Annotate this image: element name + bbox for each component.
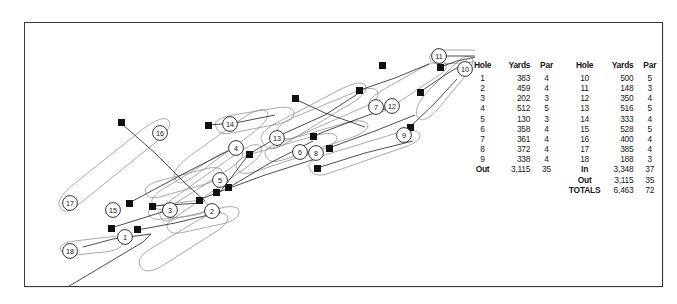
scorecard-row: 32023123504 xyxy=(468,93,660,103)
totals-yards: 6,463 xyxy=(600,185,639,195)
hole-marker-number: 1 xyxy=(123,233,127,242)
front-yards: 383 xyxy=(497,73,536,83)
out-yards: 3,115 xyxy=(497,165,536,175)
hole-marker-number: 14 xyxy=(226,120,234,129)
hole-marker-12: 12 xyxy=(385,99,400,114)
front-par: 4 xyxy=(536,134,556,144)
back-hole: 10 xyxy=(569,73,601,83)
in-par: 37 xyxy=(640,165,660,175)
hole-marker-9: 9 xyxy=(397,128,412,143)
column-gap xyxy=(557,165,569,175)
front-hole: 1 xyxy=(468,73,497,83)
hole-marker-number: 13 xyxy=(273,134,281,143)
scorecard-totals-row: TOTALS6,46372 xyxy=(468,185,660,195)
back-yards: 188 xyxy=(600,154,639,164)
out-par-2: 35 xyxy=(640,175,660,185)
out-yards-2: 3,115 xyxy=(600,175,639,185)
front-hole: 8 xyxy=(468,144,497,154)
totals-par: 72 xyxy=(640,185,660,195)
front-par: 4 xyxy=(536,144,556,154)
hole-marker-6: 6 xyxy=(293,145,308,160)
front-par: 3 xyxy=(536,114,556,124)
header-par-back: Par xyxy=(640,61,660,73)
spacer xyxy=(536,185,556,195)
scorecard-row: 51303143334 xyxy=(468,114,660,124)
out-par: 35 xyxy=(536,165,556,175)
hole-centerlines xyxy=(61,56,475,286)
hole-marker-15: 15 xyxy=(106,203,121,218)
back-yards: 148 xyxy=(600,83,639,93)
hole-marker-13: 13 xyxy=(270,131,285,146)
hole-marker-5: 5 xyxy=(213,173,228,188)
hole-marker-number: 17 xyxy=(66,199,74,208)
back-par: 4 xyxy=(640,144,660,154)
front-hole: 3 xyxy=(468,93,497,103)
scorecard-row: 83724173854 xyxy=(468,144,660,154)
hole-marker-2: 2 xyxy=(205,204,220,219)
back-hole: 14 xyxy=(569,114,601,124)
back-hole: 16 xyxy=(569,134,601,144)
column-gap xyxy=(557,103,569,113)
back-hole: 15 xyxy=(569,124,601,134)
back-par: 5 xyxy=(640,73,660,83)
hole-marker-7: 7 xyxy=(369,100,384,115)
hole-marker-number: 18 xyxy=(66,247,74,256)
hole-marker-number: 12 xyxy=(388,102,396,111)
front-hole: 9 xyxy=(468,154,497,164)
scorecard-header-row: Hole Yards Par Hole Yards Par xyxy=(468,61,660,73)
hole-marker-number: 16 xyxy=(156,129,164,138)
spacer xyxy=(468,185,497,195)
spacer xyxy=(497,185,536,195)
header-hole-back: Hole xyxy=(569,61,601,73)
front-par: 4 xyxy=(536,124,556,134)
front-hole: 2 xyxy=(468,83,497,93)
scorecard-out-repeat-row: Out3,11535 xyxy=(468,175,660,185)
back-yards: 400 xyxy=(600,134,639,144)
front-par: 4 xyxy=(536,73,556,83)
front-yards: 459 xyxy=(497,83,536,93)
back-hole: 12 xyxy=(569,93,601,103)
back-par: 3 xyxy=(640,83,660,93)
front-yards: 130 xyxy=(497,114,536,124)
spacer xyxy=(468,175,497,185)
scorecard-row: 63584155285 xyxy=(468,124,660,134)
header-yards-back: Yards xyxy=(600,61,639,73)
back-par: 4 xyxy=(640,134,660,144)
hole-marker-18: 18 xyxy=(63,244,78,259)
hole-marker-14: 14 xyxy=(223,117,238,132)
front-yards: 338 xyxy=(497,154,536,164)
front-yards: 358 xyxy=(497,124,536,134)
back-hole: 13 xyxy=(569,103,601,113)
column-gap xyxy=(557,93,569,103)
back-par: 4 xyxy=(640,114,660,124)
front-yards: 512 xyxy=(497,103,536,113)
tee-markers xyxy=(57,53,475,286)
back-par: 5 xyxy=(640,103,660,113)
plate-frame: 123456789101112131415161718 Hole Yards P… xyxy=(24,22,663,287)
front-hole: 6 xyxy=(468,124,497,134)
back-yards: 385 xyxy=(600,144,639,154)
header-yards-front: Yards xyxy=(497,61,536,73)
back-par: 4 xyxy=(640,93,660,103)
hole-marker-number: 7 xyxy=(374,103,378,112)
back-yards: 350 xyxy=(600,93,639,103)
front-par: 3 xyxy=(536,93,556,103)
front-par: 4 xyxy=(536,154,556,164)
hole-marker-number: 2 xyxy=(210,207,214,216)
hole-marker-number: 5 xyxy=(218,176,222,185)
scorecard-row: 24594111483 xyxy=(468,83,660,93)
header-hole-front: Hole xyxy=(468,61,497,73)
front-hole: 5 xyxy=(468,114,497,124)
column-gap xyxy=(557,134,569,144)
scorecard-table: Hole Yards Par Hole Yards Par 1383410500… xyxy=(468,61,660,195)
back-hole: 17 xyxy=(569,144,601,154)
hole-number-labels: 123456789101112131415161718 xyxy=(63,49,473,259)
scorecard-row: 93384181883 xyxy=(468,154,660,164)
spacer xyxy=(497,175,536,185)
hole-marker-number: 6 xyxy=(298,148,302,157)
scorecard-subtotal-row: Out3,11535In3,34837 xyxy=(468,165,660,175)
column-gap xyxy=(557,73,569,83)
hole-marker-3: 3 xyxy=(163,203,178,218)
column-gap xyxy=(557,154,569,164)
column-gap xyxy=(557,175,569,185)
